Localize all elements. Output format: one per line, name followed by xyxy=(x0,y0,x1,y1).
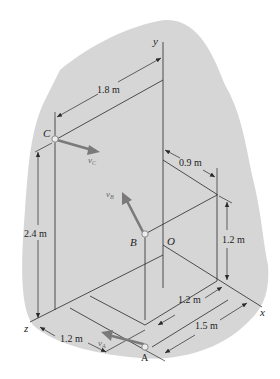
dim-0-9-label: 0.9 m xyxy=(179,157,202,168)
y-axis-label: y xyxy=(152,35,158,47)
point-b-marker xyxy=(142,231,148,237)
point-a-marker xyxy=(142,344,148,350)
point-c-marker xyxy=(52,136,58,142)
point-c-label: C xyxy=(43,127,51,139)
kinematics-diagram: y 1.8 m 2.4 m z x 0.9 m 1.2 m 1.2 m 1.5 … xyxy=(0,0,280,379)
dim-1-2-inner-label: 1.2 m xyxy=(178,294,201,305)
x-axis-label: x xyxy=(259,306,265,318)
dim-1-2-right-label: 1.2 m xyxy=(222,234,245,245)
dim-2-4-label: 2.4 m xyxy=(24,228,47,239)
dim-1-5-label: 1.5 m xyxy=(195,320,218,331)
origin-label: O xyxy=(167,235,175,247)
point-a-label: A xyxy=(141,352,149,363)
dim-1-8-label: 1.8 m xyxy=(97,84,120,95)
dim-1-2-z-label: 1.2 m xyxy=(60,333,83,344)
z-axis-label: z xyxy=(23,322,29,334)
point-b-label: B xyxy=(130,236,137,248)
